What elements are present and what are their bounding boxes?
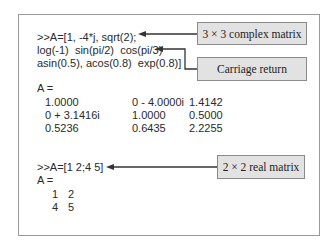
arrow-connectors-icon: [0, 0, 335, 250]
